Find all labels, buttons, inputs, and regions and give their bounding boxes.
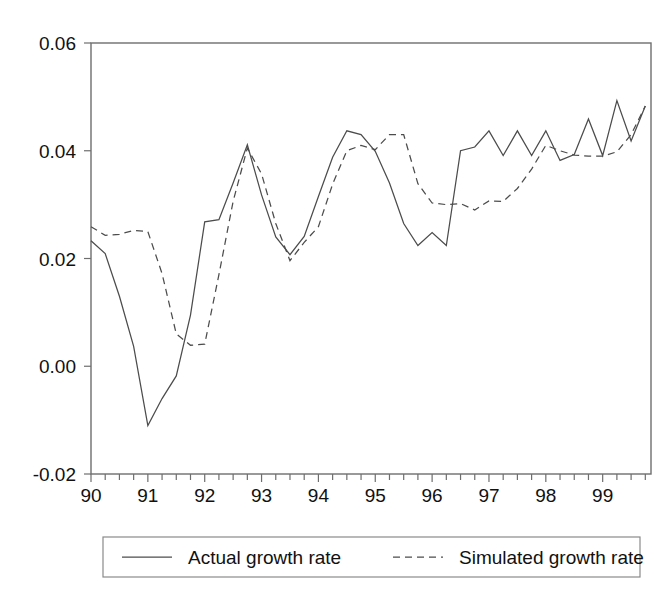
data-series-group [91,101,645,426]
y-axis-labels: 0.06 0.04 0.02 0.00 -0.02 [33,33,77,485]
y-tick-label-1: 0.04 [39,141,76,162]
chart-legend: Actual growth rate Simulated growth rate [103,537,644,577]
y-tick-label-3: 0.00 [39,356,76,377]
x-tick-label-1: 91 [137,485,158,506]
plot-frame [91,43,651,474]
x-tick-label-0: 90 [80,485,101,506]
legend-label-simulated: Simulated growth rate [459,547,644,568]
series-actual [91,101,645,426]
x-tick-label-7: 97 [478,485,499,506]
x-axis-ticks [91,474,645,482]
x-tick-label-8: 98 [535,485,556,506]
x-axis-labels: 90919293949596979899 [80,485,613,506]
series-simulated [91,106,645,345]
x-tick-label-5: 95 [365,485,386,506]
x-tick-label-9: 99 [592,485,613,506]
y-tick-label-0: 0.06 [39,33,76,54]
x-tick-label-3: 93 [251,485,272,506]
y-tick-label-4: -0.02 [33,464,76,485]
x-tick-label-6: 96 [422,485,443,506]
y-tick-label-2: 0.02 [39,249,76,270]
legend-label-actual: Actual growth rate [188,547,341,568]
x-tick-label-4: 94 [308,485,330,506]
growth-rate-chart: 0.06 0.04 0.02 0.00 -0.02 90919293949596… [0,0,670,598]
y-axis-ticks [84,43,91,474]
x-tick-label-2: 92 [194,485,215,506]
